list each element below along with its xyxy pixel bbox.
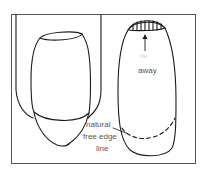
natural-label: natural — [86, 120, 111, 129]
finger-left-edge — [16, 15, 33, 118]
free-edge-label: free edge — [83, 132, 117, 141]
diagram-frame — [12, 15, 196, 164]
line-label: line — [96, 144, 109, 153]
nail-outline — [118, 21, 176, 156]
away-label: away — [138, 66, 157, 75]
nail-body — [31, 34, 91, 120]
arrow-up-icon — [143, 34, 148, 51]
free-edge-dashed-line — [122, 118, 175, 138]
nail-free-edge-illustration — [113, 21, 176, 156]
nail-diagram: file away natural free edge line — [0, 0, 203, 175]
cuticle — [40, 32, 82, 40]
faint-label: file — [140, 53, 148, 59]
